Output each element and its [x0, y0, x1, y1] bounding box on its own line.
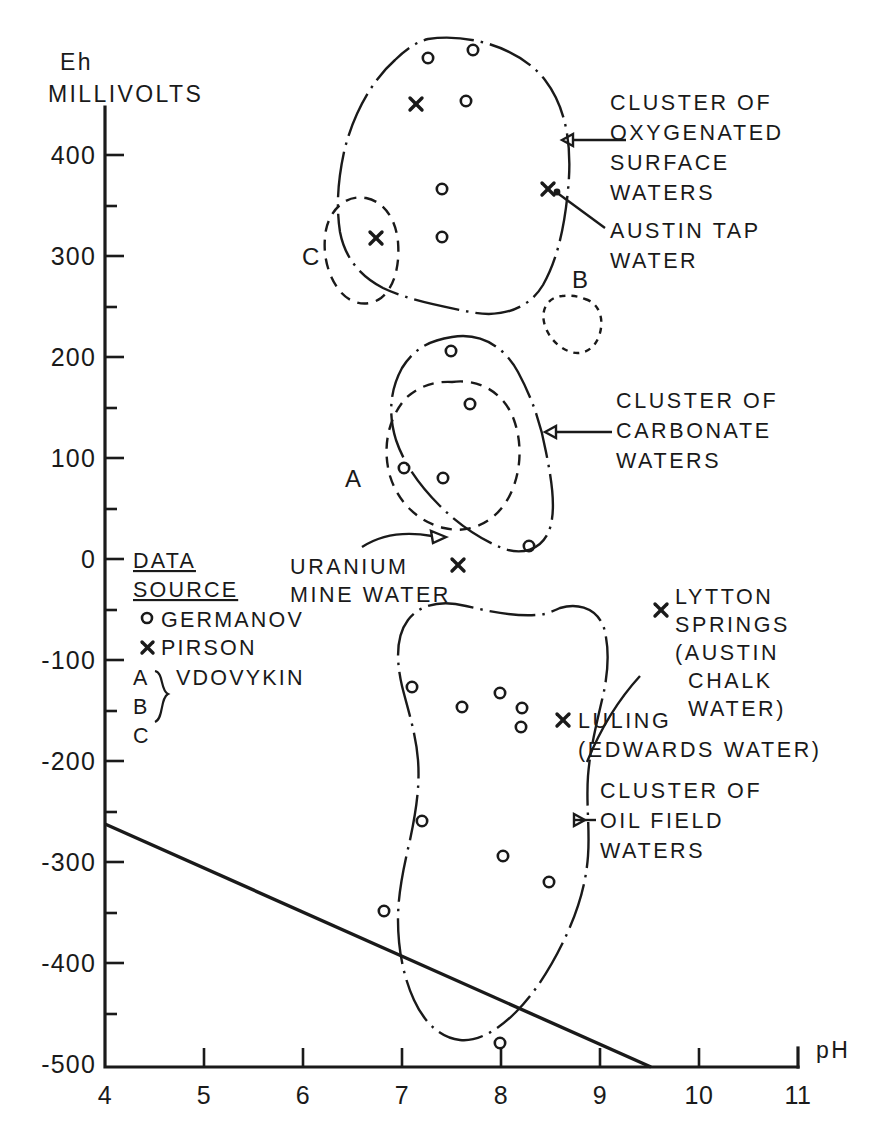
y-tick-label-200: 200	[51, 343, 96, 371]
data-point-circle	[407, 682, 417, 692]
data-point-x	[452, 559, 464, 571]
legend-circle-marker-icon	[142, 613, 152, 623]
cluster-hulls	[325, 38, 608, 1041]
legend-x-marker-icon	[142, 642, 153, 653]
y-axis-title-line1: Eh	[60, 49, 93, 75]
annot-line: LYTTON	[675, 585, 773, 609]
hull-vdovykin-b	[543, 296, 601, 353]
annotation-carbonate-waters: CLUSTER OF CARBONATE WATERS	[616, 389, 778, 473]
annot-line: SURFACE	[610, 151, 730, 175]
x-tick-label-8: 8	[494, 1081, 508, 1109]
data-point-circle	[465, 399, 475, 409]
y-tick-label-0: 0	[81, 545, 96, 573]
y-tick-label-300: 300	[51, 242, 96, 270]
arrowhead-uranium-mine	[431, 531, 446, 543]
y-tick-label-neg100: -100	[41, 646, 96, 674]
annot-line: CLUSTER OF	[616, 389, 778, 413]
annot-line: (EDWARDS WATER)	[578, 738, 822, 762]
eh-ph-diagram: 400 300 200 100 0 -100 -200 -300 -400 -5…	[0, 0, 879, 1143]
y-tick-label-neg500: -500	[41, 1050, 96, 1078]
water-stability-boundary-line	[105, 824, 651, 1067]
plot-canvas: 400 300 200 100 0 -100 -200 -300 -400 -5…	[0, 0, 879, 1143]
region-label-c: C	[302, 243, 320, 270]
annot-line: CLUSTER OF	[600, 779, 762, 803]
annot-line: WATERS	[610, 181, 715, 205]
x-tick-label-4: 4	[98, 1081, 112, 1109]
annot-line: MINE WATER	[290, 583, 451, 607]
hull-carbonate-waters	[391, 336, 553, 551]
region-label-b: B	[572, 266, 589, 293]
annot-line: WATER	[610, 249, 698, 273]
y-tick-label-neg200: -200	[41, 747, 96, 775]
annot-line: URANIUM	[290, 555, 409, 579]
data-point-x	[410, 98, 422, 110]
legend-title-line2: SOURCE	[133, 578, 238, 602]
data-point-circle	[468, 45, 478, 55]
annot-line: WATERS	[600, 839, 705, 863]
data-point-circle	[516, 722, 526, 732]
legend-group-key-b: B	[133, 695, 150, 719]
annot-line: (AUSTIN	[675, 641, 779, 665]
leader-uranium-mine	[362, 534, 432, 547]
region-label-a: A	[345, 465, 362, 492]
data-point-circle	[379, 906, 389, 916]
y-tick-label-400: 400	[51, 141, 96, 169]
data-point-circle	[446, 346, 456, 356]
x-tick-label-6: 6	[296, 1081, 310, 1109]
y-axis-title-line2: MILLIVOLTS	[48, 81, 203, 107]
annotation-austin-tap-water: AUSTIN TAP WATER	[610, 219, 761, 273]
hull-oxygenated-surface-waters	[338, 38, 569, 314]
annot-line: SPRINGS	[675, 613, 790, 637]
data-point-circle	[544, 877, 554, 887]
data-point-circle	[498, 851, 508, 861]
legend-brace-icon	[155, 671, 168, 722]
data-point-circle	[437, 184, 447, 194]
annot-line: OXYGENATED	[610, 121, 784, 145]
annot-line: WATER)	[688, 697, 786, 721]
annotation-uranium-mine-water: URANIUM MINE WATER	[290, 555, 451, 607]
x-tick-label-10: 10	[685, 1081, 714, 1109]
leader-dot-austin-tap	[554, 189, 561, 196]
y-tick-label-100: 100	[51, 444, 96, 472]
arrowhead-carbonate	[545, 426, 556, 438]
data-point-x	[655, 604, 667, 616]
legend-group-key-a: A	[133, 666, 150, 690]
data-point-circle	[495, 688, 505, 698]
x-axis-title: pH	[816, 1037, 850, 1063]
data-point-circle	[495, 1038, 505, 1048]
x-tick-label-7: 7	[395, 1081, 409, 1109]
hull-vdovykin-a	[387, 381, 520, 529]
annot-line: CLUSTER OF	[610, 91, 772, 115]
hull-vdovykin-c	[325, 197, 399, 303]
data-point-circle	[399, 463, 409, 473]
annot-line: LULING	[578, 709, 671, 733]
annot-line: AUSTIN TAP	[610, 219, 761, 243]
y-tick-label-neg400: -400	[41, 949, 96, 977]
series-germanov-points	[379, 45, 554, 1048]
legend: DATA SOURCE GERMANOV PIRSON A B C VDOVYK…	[133, 549, 305, 748]
data-point-x	[542, 183, 554, 195]
data-point-circle	[438, 473, 448, 483]
data-point-circle	[417, 816, 427, 826]
annot-line: CHALK	[688, 669, 773, 693]
hull-oil-field-waters	[398, 603, 608, 1040]
annotation-oxygenated-surface-waters: CLUSTER OF OXYGENATED SURFACE WATERS	[610, 91, 784, 205]
y-tick-label-neg300: -300	[41, 848, 96, 876]
annotation-oil-field-waters: CLUSTER OF OIL FIELD WATERS	[600, 779, 762, 863]
legend-label-germanov: GERMANOV	[161, 608, 304, 632]
legend-label-vdovykin: VDOVYKIN	[176, 666, 305, 690]
x-tick-label-11: 11	[785, 1081, 812, 1109]
x-tick-label-5: 5	[197, 1081, 211, 1109]
annot-line: CARBONATE	[616, 419, 772, 443]
data-point-circle	[423, 53, 433, 63]
legend-title-line1: DATA	[133, 549, 196, 573]
annotation-lytton-springs: LYTTON SPRINGS (AUSTIN CHALK WATER)	[675, 585, 790, 721]
data-point-x	[370, 232, 382, 244]
y-ticks	[105, 155, 124, 1014]
data-point-x	[557, 714, 569, 726]
annot-line: OIL FIELD	[600, 809, 724, 833]
data-point-circle	[517, 703, 527, 713]
x-ticks	[204, 1048, 699, 1067]
data-point-circle	[457, 702, 467, 712]
legend-group-key-c: C	[133, 724, 151, 748]
